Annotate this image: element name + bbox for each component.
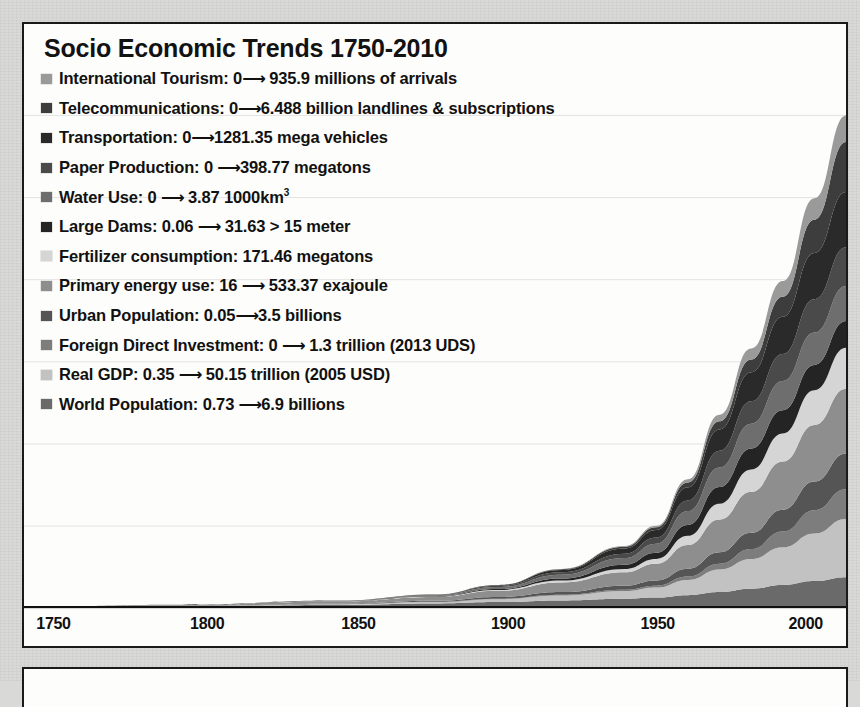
legend-item-telecommunications[interactable]: Telecommunications: 0⟶6.488 billion land… — [36, 94, 636, 124]
legend-swatch-icon — [41, 163, 52, 173]
legend-item-world-population[interactable]: World Population: 0.73 ⟶6.9 billions — [36, 390, 636, 420]
legend-item-label: Large Dams: 0.06 ⟶ 31.63 > 15 meter — [59, 217, 350, 236]
legend-item-label: International Tourism: 0⟶ 935.9 millions… — [59, 69, 457, 88]
legend-item-label: Foreign Direct Investment: 0 ⟶ 1.3 trill… — [59, 336, 475, 355]
x-axis: 175018001850190019502000 — [24, 606, 846, 646]
legend-swatch-icon — [41, 103, 52, 113]
legend-swatch-icon — [41, 251, 52, 261]
x-axis-tick-1750: 1750 — [36, 615, 70, 633]
x-axis-tick-2000: 2000 — [788, 615, 822, 633]
legend-item-foreign-direct-investment[interactable]: Foreign Direct Investment: 0 ⟶ 1.3 trill… — [36, 330, 636, 360]
legend-swatch-icon — [41, 133, 52, 143]
legend-item-label: Urban Population: 0.05⟶3.5 billions — [59, 306, 342, 325]
x-axis-tick-1950: 1950 — [641, 615, 675, 633]
chart-panel: Socio Economic Trends 1750-2010 Internat… — [22, 22, 848, 648]
legend-item-label: World Population: 0.73 ⟶6.9 billions — [59, 395, 345, 414]
x-axis-tick-1850: 1850 — [341, 615, 375, 633]
legend-swatch-icon — [41, 399, 52, 409]
legend-item-paper-production[interactable]: Paper Production: 0 ⟶398.77 megatons — [36, 153, 636, 183]
legend-swatch-icon — [41, 370, 52, 380]
legend-item-primary-energy-use[interactable]: Primary energy use: 16 ⟶ 533.37 exajoule — [36, 271, 636, 301]
secondary-panel — [22, 667, 848, 707]
legend-swatch-icon — [41, 281, 52, 291]
legend-item-large-dams[interactable]: Large Dams: 0.06 ⟶ 31.63 > 15 meter — [36, 212, 636, 242]
legend-item-label: Paper Production: 0 ⟶398.77 megatons — [59, 158, 371, 177]
legend-item-transportation[interactable]: Transportation: 0⟶1281.35 mega vehicles — [36, 123, 636, 153]
x-axis-tick-1900: 1900 — [491, 615, 525, 633]
legend-item-fertilizer-consumption[interactable]: Fertilizer consumption: 171.46 megatons — [36, 242, 636, 272]
legend-item-label: Fertilizer consumption: 171.46 megatons — [59, 247, 373, 266]
legend-item-label: Primary energy use: 16 ⟶ 533.37 exajoule — [59, 276, 388, 295]
legend-item-water-use[interactable]: Water Use: 0 ⟶ 3.87 1000km3 — [36, 182, 636, 212]
legend-item-label: Water Use: 0 ⟶ 3.87 1000km3 — [59, 187, 289, 207]
legend-item-international-tourism[interactable]: International Tourism: 0⟶ 935.9 millions… — [36, 64, 636, 94]
legend-swatch-icon — [41, 340, 52, 350]
legend-item-label: Telecommunications: 0⟶6.488 billion land… — [59, 99, 555, 118]
legend-item-urban-population[interactable]: Urban Population: 0.05⟶3.5 billions — [36, 301, 636, 331]
page-title: Socio Economic Trends 1750-2010 — [44, 34, 636, 62]
legend-item-label: Transportation: 0⟶1281.35 mega vehicles — [59, 128, 388, 147]
legend-item-label: Real GDP: 0.35 ⟶ 50.15 trillion (2005 US… — [59, 365, 390, 384]
legend-swatch-icon — [41, 74, 52, 84]
legend-swatch-icon — [41, 311, 52, 321]
chart-legend: Socio Economic Trends 1750-2010 Internat… — [36, 30, 636, 419]
legend-item-real-gdp[interactable]: Real GDP: 0.35 ⟶ 50.15 trillion (2005 US… — [36, 360, 636, 390]
x-axis-tick-1800: 1800 — [190, 615, 224, 633]
legend-swatch-icon — [41, 222, 52, 232]
legend-swatch-icon — [41, 192, 52, 202]
